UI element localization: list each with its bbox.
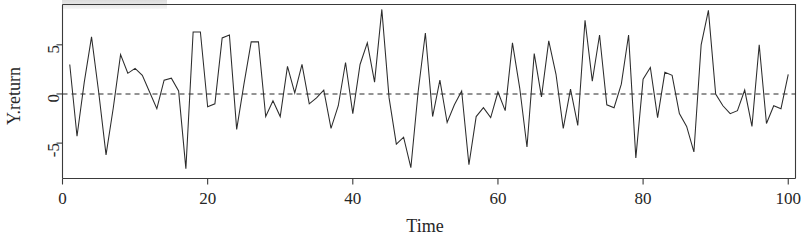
y-axis-title: Y.return: [4, 67, 25, 125]
x-tick-label: 80: [635, 190, 652, 207]
x-tick-label: 0: [58, 190, 67, 207]
x-tick-label: 20: [199, 190, 216, 207]
y-tick-label: 0: [44, 94, 61, 103]
x-axis-ticks: [63, 179, 789, 185]
series-line-y-return: [70, 9, 788, 168]
y-tick-label: -5: [44, 143, 61, 157]
plot-frame: [63, 5, 796, 179]
chart-screenshot: 020406080100 -505 Time Y.return: [0, 0, 811, 241]
y-tick-label: 5: [44, 45, 61, 54]
x-tick-label: 40: [344, 190, 361, 207]
x-axis-title: Time: [406, 216, 443, 237]
plot-canvas: [0, 0, 811, 241]
x-tick-label: 60: [489, 190, 506, 207]
x-tick-label: 100: [775, 190, 801, 207]
